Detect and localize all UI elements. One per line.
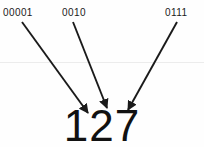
- binary-decode-figure: 00001 0010 0111 127: [0, 0, 204, 147]
- arrow-to-digit-2: [73, 22, 107, 108]
- arrow-to-digit-7: [128, 22, 177, 110]
- decimal-value: 127: [0, 104, 204, 147]
